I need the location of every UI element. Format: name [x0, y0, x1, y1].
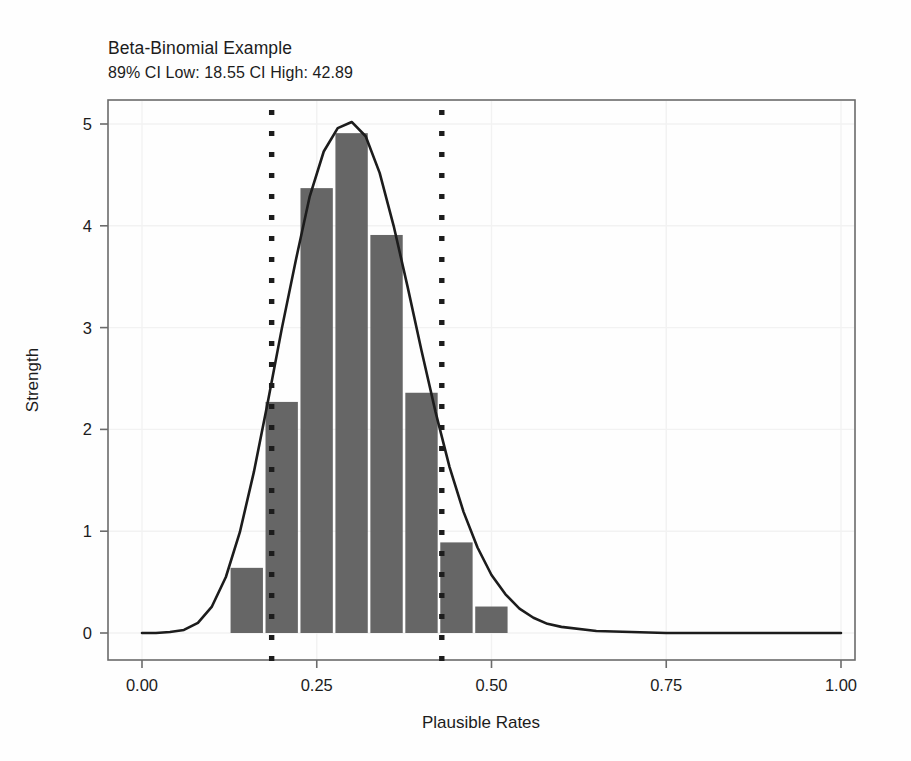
chart-figure: Beta-Binomial Example 89% CI Low: 18.55 …: [0, 0, 911, 761]
plot-frame: [108, 100, 855, 660]
x-tick-label: 1.00: [825, 676, 857, 694]
x-tick-label: 0.00: [126, 676, 158, 694]
histogram-bar: [335, 133, 367, 633]
histogram-bar: [440, 542, 472, 633]
y-tick-label: 3: [83, 319, 92, 337]
x-axis-title: Plausible Rates: [422, 713, 540, 732]
y-tick-label: 1: [83, 522, 92, 540]
y-tick-label: 4: [83, 217, 92, 235]
y-tick-label: 2: [83, 420, 92, 438]
histogram-bar: [266, 402, 298, 633]
plot-area: 0.000.250.500.751.00012345 Plausible Rat…: [0, 0, 911, 761]
grid-lines: [109, 101, 854, 659]
histogram-bar: [370, 235, 402, 633]
x-tick-label: 0.25: [301, 676, 333, 694]
histogram-bar: [405, 393, 437, 633]
y-tick-label: 5: [83, 115, 92, 133]
histogram-bar: [300, 188, 332, 633]
histogram-bar: [231, 568, 263, 633]
y-tick-label: 0: [83, 624, 92, 642]
y-axis-title: Strength: [23, 348, 42, 412]
x-tick-label: 0.50: [475, 676, 507, 694]
histogram-bar: [475, 607, 507, 633]
x-tick-label: 0.75: [650, 676, 682, 694]
